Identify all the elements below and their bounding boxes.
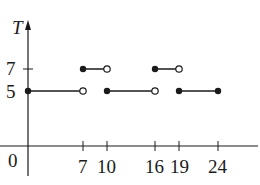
x-tick-label-16: 16 [145,156,164,177]
step-function-chart: T 0 7 5 7 10 16 19 24 [0,0,260,185]
closed-dot-icon [25,88,31,94]
open-dot-icon [176,66,182,72]
open-dot-icon [80,88,86,94]
y-axis-label: T [12,17,24,38]
y-axis-arrow-icon [25,20,31,30]
closed-dot-icon [215,88,221,94]
x-tick-label-19: 19 [170,156,189,177]
y-tick-label-7: 7 [6,58,16,79]
x-tick-label-10: 10 [97,156,116,177]
open-dot-icon [104,66,110,72]
closed-dot-icon [104,88,110,94]
step-segments [28,69,218,91]
open-dot-icon [152,88,158,94]
closed-dot-icon [176,88,182,94]
x-tick-label-7: 7 [78,156,88,177]
origin-label: 0 [8,150,18,171]
closed-endpoints [25,66,221,94]
x-tick-label-24: 24 [208,156,228,177]
y-tick-label-5: 5 [6,81,16,102]
closed-dot-icon [152,66,158,72]
closed-dot-icon [80,66,86,72]
open-endpoints [80,66,182,94]
